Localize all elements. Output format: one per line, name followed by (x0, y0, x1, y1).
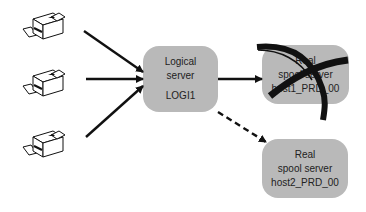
printer-icon (23, 131, 65, 157)
arrow-printer1-to-logical (84, 31, 143, 72)
cross-out-mark-icon (257, 47, 348, 120)
arrow-logical-to-server2-dashed (218, 112, 266, 142)
printer-icon (23, 70, 65, 96)
diagram-canvas: Logical server LOGI1 Real spool server h… (0, 0, 366, 212)
printer-icon (23, 13, 65, 39)
arrow-printer3-to-logical (86, 86, 143, 137)
connectors-layer (0, 0, 366, 212)
